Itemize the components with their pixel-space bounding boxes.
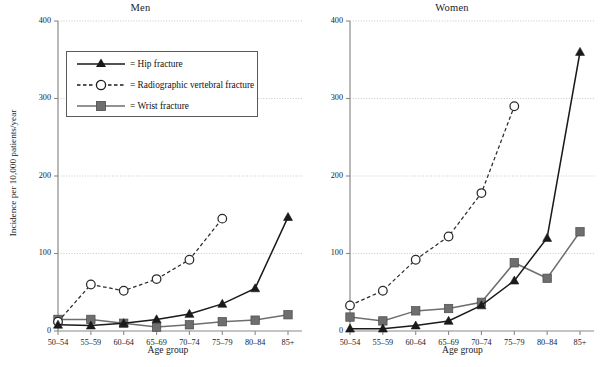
legend-item-vertebral: = Radiographic vertebral fracture bbox=[67, 74, 257, 96]
legend-label-wrist: = Wrist fracture bbox=[130, 101, 189, 111]
y-tick-label: 300 bbox=[18, 93, 51, 102]
y-tick-label: 0 bbox=[310, 326, 343, 335]
chart-panel-women: Women Age group 010020030040050–5455–596… bbox=[305, 0, 611, 367]
plot-area-women bbox=[305, 0, 611, 367]
legend-item-wrist: = Wrist fracture bbox=[67, 95, 257, 117]
y-tick-label: 400 bbox=[310, 16, 343, 25]
circle-open-marker bbox=[75, 78, 127, 92]
y-tick-label: 300 bbox=[310, 93, 343, 102]
legend-item-hip: = Hip fracture bbox=[67, 53, 257, 75]
x-tick-label: 85+ bbox=[561, 338, 599, 347]
triangle-solid-marker bbox=[75, 57, 127, 71]
y-tick-label: 200 bbox=[310, 171, 343, 180]
y-tick-label: 200 bbox=[18, 171, 51, 180]
fracture-incidence-figure: Men Incidence per 10,000 patients/year A… bbox=[0, 0, 611, 367]
y-tick-label: 100 bbox=[18, 248, 51, 257]
x-tick-label: 85+ bbox=[269, 338, 307, 347]
legend: = Hip fracture = Radiographic vertebral … bbox=[66, 51, 258, 117]
chart-panel-men: Men Incidence per 10,000 patients/year A… bbox=[0, 0, 305, 367]
square-solid-marker bbox=[75, 99, 127, 113]
y-tick-label: 0 bbox=[18, 326, 51, 335]
y-tick-label: 400 bbox=[18, 16, 51, 25]
y-tick-label: 100 bbox=[310, 248, 343, 257]
legend-label-vertebral: = Radiographic vertebral fracture bbox=[130, 80, 254, 90]
legend-label-hip: = Hip fracture bbox=[130, 59, 183, 69]
